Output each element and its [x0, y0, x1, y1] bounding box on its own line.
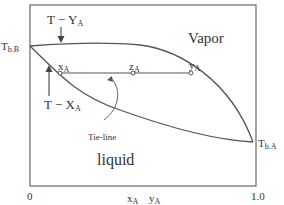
- ya-label: yA: [189, 60, 200, 73]
- tbb-main: T: [1, 40, 8, 52]
- bubble-curve-sub: A: [75, 104, 81, 113]
- dew-curve-label: T − YA: [47, 13, 83, 28]
- phase-diagram-canvas: [0, 0, 284, 205]
- x-max-text: 1.0: [251, 190, 265, 202]
- dew-arrow-head: [58, 36, 65, 43]
- xa-label: xA: [58, 61, 69, 74]
- x-axis-max: 1.0: [251, 191, 265, 202]
- tba-sub: b.A: [265, 142, 277, 151]
- bubble-curve-text: T − X: [44, 97, 75, 112]
- bubble-curve-label: T − XA: [44, 98, 81, 113]
- x-axis-min: 0: [27, 191, 33, 202]
- tbb-sub: b.B: [8, 45, 19, 54]
- tba-main: T: [258, 137, 265, 149]
- vapor-text: Vapor: [188, 30, 224, 46]
- bubble-arrow-head: [46, 65, 53, 72]
- vapor-region-label: Vapor: [188, 31, 224, 46]
- tbb-label: Tb.B: [1, 41, 19, 54]
- tie-line-text: Tie-line: [88, 132, 116, 142]
- liquid-text: liquid: [97, 151, 134, 168]
- dew-curve: [30, 43, 253, 142]
- tba-label: Tb.A: [258, 138, 277, 151]
- x-axis-label-xa: xA: [127, 193, 138, 205]
- tie-line-label: Tie-line: [88, 133, 116, 142]
- ya-sub: A: [195, 64, 201, 73]
- tie-line-pointer: [104, 77, 118, 120]
- dew-curve-text: T − Y: [47, 12, 77, 27]
- x-label-2-sub: A: [155, 197, 161, 205]
- x-label-1-sub: A: [133, 197, 139, 205]
- x-axis-label-ya: yA: [149, 193, 160, 205]
- za-label: zA: [129, 61, 140, 74]
- xa-sub: A: [64, 65, 70, 74]
- liquid-region-label: liquid: [97, 152, 134, 168]
- dew-curve-sub: A: [77, 19, 83, 28]
- x-min-text: 0: [27, 190, 33, 202]
- tie-line-pointer-head: [107, 76, 113, 82]
- za-sub: A: [134, 65, 140, 74]
